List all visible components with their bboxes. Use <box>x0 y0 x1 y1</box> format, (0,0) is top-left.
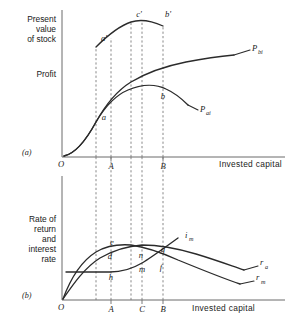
panel-b-xtick-label-b: B <box>160 304 166 314</box>
panel-b-ylabel-line-1: Rate of <box>29 214 57 224</box>
panel-b-leader-rm <box>240 281 254 284</box>
panel-a-curve-label-pai: P ai <box>199 104 211 116</box>
panel-a-curve-pbi <box>64 55 234 156</box>
panel-b-ylabel-line-5: rate <box>42 254 57 264</box>
panel-b-curve-label-rm-sub: m <box>261 278 266 285</box>
panel-b-label: (b) <box>22 291 32 300</box>
panel-a-curve-pai <box>64 85 188 156</box>
panel-b-curve-label-rm: r m <box>256 272 266 285</box>
panel-a: Present value of stock Profit (a) O A B … <box>22 9 285 171</box>
panel-b-curve-label-ra: r a <box>260 257 268 270</box>
panel-a-ylabel-line-2: value <box>36 24 56 34</box>
panel-b-point-m: m <box>139 264 145 274</box>
panel-b-xaxis-label: Invested capital <box>192 303 255 313</box>
panel-a-point-c-prime: c' <box>136 9 142 19</box>
panel-b-ylabel-line-2: return <box>34 224 56 234</box>
panel-b-point-n: n <box>139 250 143 260</box>
panel-a-origin-label: O <box>58 159 64 169</box>
panel-a-curve-label-pai-sub: ai <box>206 109 211 116</box>
panel-a-point-b: b <box>161 91 166 101</box>
panel-b-ylabel-line-3: and <box>42 234 56 244</box>
figure-svg: Present value of stock Profit (a) O A B … <box>0 0 291 326</box>
panel-b-point-e: e <box>110 237 114 247</box>
panel-b-curve-label-ra-sub: a <box>265 263 268 270</box>
panel-a-curve-label-pbi: P bi <box>251 43 263 55</box>
panel-b-xtick-label-c: C <box>139 304 145 314</box>
panel-b-point-g: g <box>161 244 166 254</box>
panel-a-point-a-prime: a' <box>101 33 107 43</box>
panel-a-point-a: a <box>102 112 106 122</box>
panel-a-ylabel-profit: Profit <box>36 69 56 79</box>
panel-a-curve-label-pai-base: P <box>199 104 206 114</box>
panel-b-curve-label-im-base: i <box>185 230 188 240</box>
panel-b-ylabel-line-4: interest <box>29 244 57 254</box>
panel-b-curve-label-ra-base: r <box>260 257 264 267</box>
inter-panel-droplines <box>96 157 163 176</box>
panel-a-ylabel-line-1: Present <box>27 14 57 24</box>
panel-a-xaxis-label: Invested capital <box>219 159 282 169</box>
panel-a-ylabel-line-3: of stock <box>27 34 57 44</box>
panel-b-leader-ra <box>244 266 258 270</box>
panel-b-curve-label-rm-base: r <box>256 272 260 282</box>
panel-b-curve-label-im-sub: m <box>189 235 194 242</box>
panel-b-xtick-label-a: A <box>107 304 114 314</box>
panel-b-point-h: h <box>109 272 113 282</box>
panel-a-leader-pai <box>188 105 198 110</box>
panel-a-curve-label-pbi-sub: bi <box>258 48 263 55</box>
figure-container: Present value of stock Profit (a) O A B … <box>0 0 291 326</box>
panel-b: Rate of return and interest rate (b) O A… <box>22 176 285 314</box>
panel-a-point-b-prime: b' <box>165 9 171 19</box>
panel-a-curve-label-pbi-base: P <box>251 43 258 53</box>
panel-b-origin-label: O <box>58 302 64 312</box>
panel-b-curve-label-im: i m <box>185 230 194 242</box>
panel-a-leader-pbi <box>234 50 250 55</box>
panel-b-point-d: d <box>108 251 113 261</box>
panel-a-label: (a) <box>22 148 32 157</box>
